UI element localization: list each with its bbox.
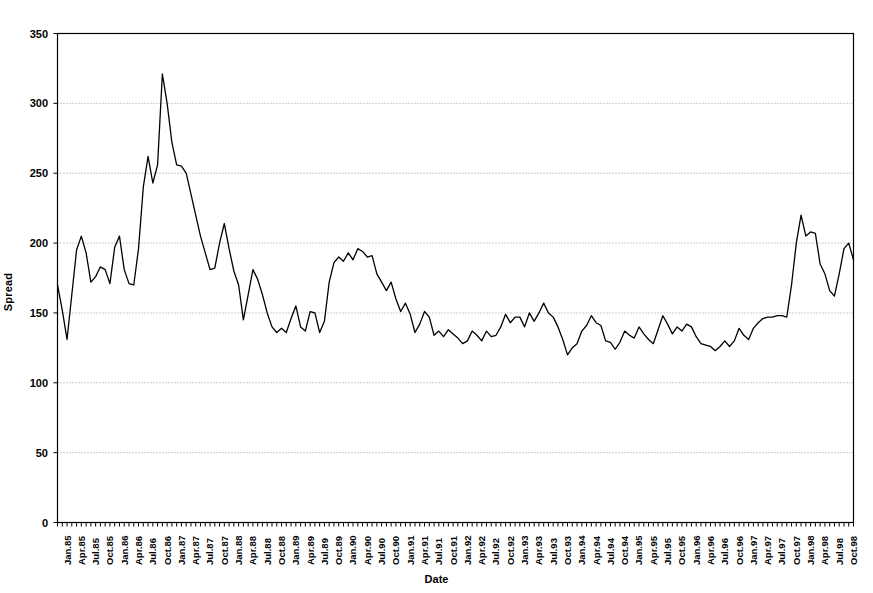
plot-area <box>0 0 873 593</box>
line-chart: Spread Date 050100150200250300350 Jan.85… <box>0 0 873 593</box>
data-series-line <box>58 74 854 355</box>
axis-lines <box>58 34 854 523</box>
gridlines <box>58 103 854 452</box>
